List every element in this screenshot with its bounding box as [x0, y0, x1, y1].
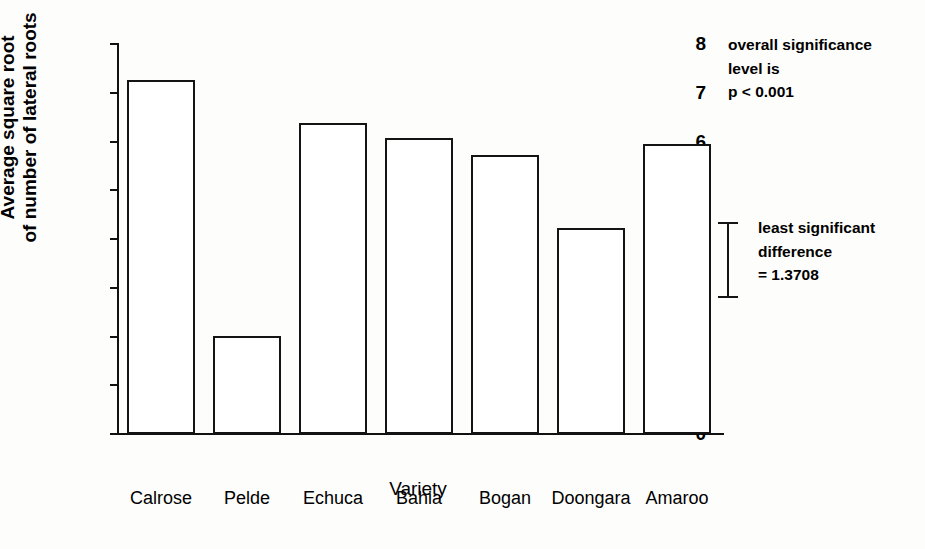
x-axis-tick-label: Echuca [303, 488, 363, 509]
x-axis-tick-label: Amaroo [645, 488, 708, 509]
lsd-label: least significant difference = 1.3708 [758, 216, 925, 287]
bar [643, 144, 712, 434]
bar [213, 336, 282, 434]
significance-note: overall significance level is p < 0.001 [728, 33, 918, 104]
y-axis-tick [110, 336, 118, 338]
x-axis-title: Variety [389, 478, 447, 500]
y-axis-tick-label: 8 [695, 33, 706, 55]
figure-canvas: 012345678 CalrosePeldeEchucaBahiaBoganDo… [0, 0, 925, 549]
y-axis-title: Average square root of number of lateral… [0, 0, 41, 292]
x-axis-tick-label: Pelde [224, 488, 270, 509]
y-axis-tick [110, 287, 118, 289]
bar [471, 155, 540, 434]
y-axis-tick [110, 141, 118, 143]
bar [127, 80, 196, 434]
y-axis-tick [110, 238, 118, 240]
y-axis-tick [110, 433, 118, 435]
bar [299, 123, 368, 435]
bar [385, 138, 454, 434]
x-axis-tick-label: Calrose [130, 488, 192, 509]
y-axis-tick [110, 384, 118, 386]
y-axis-tick [110, 92, 118, 94]
plot-area: 012345678 CalrosePeldeEchucaBahiaBoganDo… [118, 44, 720, 434]
lsd-error-bar-icon [716, 222, 740, 298]
x-axis-tick-label: Bogan [479, 488, 531, 509]
y-axis-tick [110, 189, 118, 191]
x-axis-tick-label: Doongara [551, 488, 630, 509]
y-axis-tick [110, 43, 118, 45]
bar [557, 228, 626, 434]
y-axis-tick-label: 7 [695, 82, 706, 104]
